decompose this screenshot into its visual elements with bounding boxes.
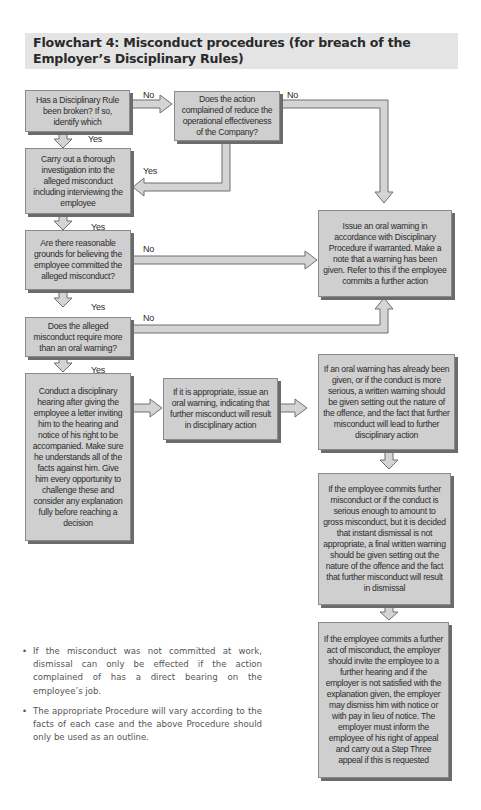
box-text: If the employee commits further miscondu… [323,484,446,594]
box-text: Are there reasonable grounds for believi… [30,238,126,282]
label-no-1: No [143,90,154,100]
label-no-4: No [143,313,154,323]
box-text: Carry out a thorough investigation into … [30,154,126,209]
box-text: Does the action complained of reduce the… [179,94,275,138]
label-yes-2: Yes [143,166,157,176]
arrow-final-to-dismiss [380,605,398,620]
box-more-than-oral: Does the alleged misconduct require more… [25,317,131,357]
box-reduce-effectiveness: Does the action complained of reduce the… [174,91,280,141]
arrow-yes-4 [54,290,72,307]
arrow-no-4 [130,298,393,333]
label-yes-3: Yes [91,222,105,232]
label-yes-5: Yes [91,365,105,375]
arrow-hearing-to-issue [130,399,162,417]
arrow-written-to-final [380,451,398,469]
label-yes-4: Yes [91,302,105,312]
box-issue-oral: If it is appropriate, issue an oral warn… [163,378,278,440]
box-hearing: Conduct a disciplinary hearing after giv… [25,373,131,541]
label-no-3: No [143,244,154,254]
label-yes-1: Yes [88,134,102,144]
footnote-item: • The appropriate Procedure will vary ac… [22,705,262,745]
box-text: If an oral warning has already been give… [323,364,450,441]
box-dismiss: If the employee commits a further act of… [318,622,449,778]
arrow-yes-5 [54,355,72,372]
arrow-yes-3 [54,213,72,230]
bullet-icon: • [22,705,27,718]
arrow-yes-1 [54,131,72,148]
box-text: Has a Disciplinary Rule been broken? If … [30,95,125,128]
footnotes: • If the misconduct was not committed at… [22,645,262,751]
box-final-written: If the employee commits further miscondu… [318,473,451,605]
box-text: If the employee commits a further act of… [323,634,444,766]
arrow-no-2 [280,100,393,203]
box-text: Conduct a disciplinary hearing after giv… [30,386,126,529]
footnote-text: The appropriate Procedure will vary acco… [33,706,262,742]
footnote-text: If the misconduct was not committed at w… [33,646,262,696]
label-no-2: No [287,90,298,100]
footnote-item: • If the misconduct was not committed at… [22,645,262,698]
arrow-issue-to-written [278,399,307,417]
arrow-no-3 [130,251,317,269]
box-written-warning: If an oral warning has already been give… [318,354,455,450]
box-reasonable-grounds: Are there reasonable grounds for believi… [25,230,131,290]
box-rule-broken: Has a Disciplinary Rule been broken? If … [25,90,130,132]
box-investigation: Carry out a thorough investigation into … [25,148,131,214]
box-text: Issue an oral warning in accordance with… [323,221,447,287]
box-text: Does the alleged misconduct require more… [30,321,126,354]
bullet-icon: • [22,645,27,658]
box-text: If it is appropriate, issue an oral warn… [168,387,273,431]
box-oral-warning: Issue an oral warning in accordance with… [318,210,452,297]
